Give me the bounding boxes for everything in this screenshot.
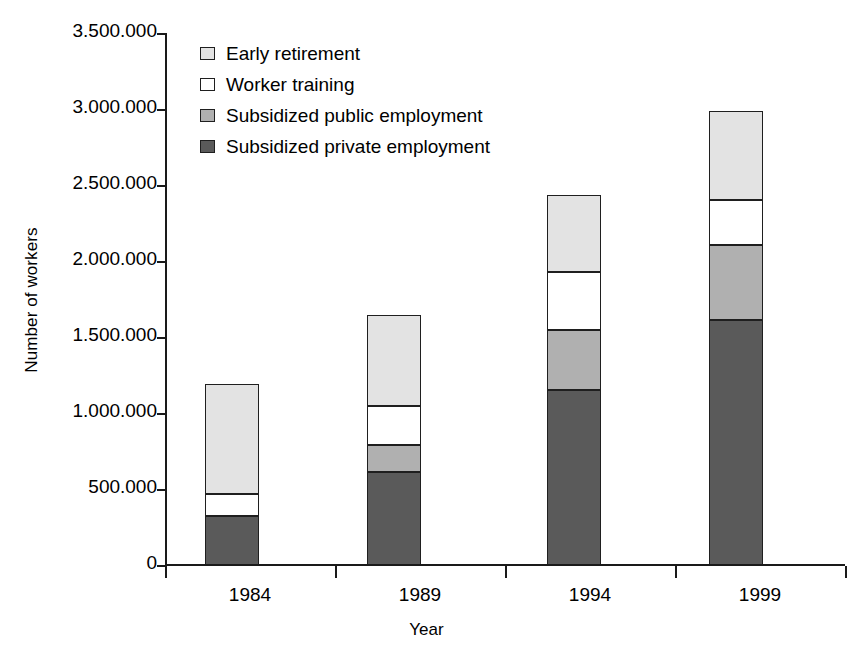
legend-item-label: Subsidized private employment (226, 136, 490, 158)
legend-item-label: Early retirement (226, 43, 360, 65)
legend-swatch-icon (200, 78, 215, 91)
legend-swatch-icon (200, 109, 215, 122)
bar-segment (367, 445, 421, 472)
legend-item-label: Worker training (226, 74, 354, 96)
bar-segment (547, 195, 601, 272)
bar-segment (367, 315, 421, 406)
legend-item: Early retirement (200, 38, 490, 69)
chart-legend: Early retirementWorker trainingSubsidize… (200, 38, 490, 162)
x-tick-mark (675, 566, 677, 578)
y-tick-mark (157, 489, 166, 491)
bar-segment (547, 272, 601, 331)
x-tick-label: 1999 (700, 584, 820, 606)
bar-segment (547, 330, 601, 390)
x-axis-title: Year (0, 620, 853, 640)
bar-segment (709, 200, 763, 245)
bar-segment (709, 111, 763, 201)
y-tick-label: 3.000.000 (7, 96, 157, 118)
x-tick-mark (335, 566, 337, 578)
y-tick-label: 0 (7, 552, 157, 574)
y-axis-title: Number of workers (22, 190, 42, 410)
y-tick-mark (157, 33, 166, 35)
stacked-bar-chart: Number of workers 3.500.0003.000.0002.50… (0, 0, 853, 656)
y-tick-mark (157, 185, 166, 187)
x-tick-mark (505, 566, 507, 578)
bar-segment (367, 406, 421, 445)
legend-item: Subsidized private employment (200, 131, 490, 162)
y-tick-mark (157, 337, 166, 339)
y-tick-label: 3.500.000 (7, 20, 157, 42)
legend-item-label: Subsidized public employment (226, 105, 483, 127)
bar-1999 (709, 0, 763, 566)
bar-segment (709, 320, 763, 565)
x-tick-label: 1984 (190, 584, 310, 606)
y-tick-mark (157, 413, 166, 415)
bar-segment (367, 472, 421, 565)
x-tick-label: 1989 (360, 584, 480, 606)
bar-1994 (547, 0, 601, 566)
legend-swatch-icon (200, 47, 215, 60)
y-tick-label: 2.000.000 (7, 248, 157, 270)
bar-segment (205, 384, 259, 493)
y-tick-mark (157, 261, 166, 263)
bar-segment (547, 390, 601, 565)
y-tick-mark (157, 109, 166, 111)
y-tick-label: 1.500.000 (7, 324, 157, 346)
bar-segment (205, 494, 259, 517)
y-axis-line (165, 33, 167, 566)
bar-segment (709, 245, 763, 320)
legend-item: Subsidized public employment (200, 100, 490, 131)
x-tick-label: 1994 (530, 584, 650, 606)
y-tick-label: 500.000 (7, 476, 157, 498)
legend-item: Worker training (200, 69, 490, 100)
y-tick-label: 1.000.000 (7, 400, 157, 422)
x-tick-mark (845, 566, 847, 578)
x-tick-mark (165, 566, 167, 578)
legend-swatch-icon (200, 140, 215, 153)
bar-segment (205, 516, 259, 565)
y-tick-label: 2.500.000 (7, 172, 157, 194)
